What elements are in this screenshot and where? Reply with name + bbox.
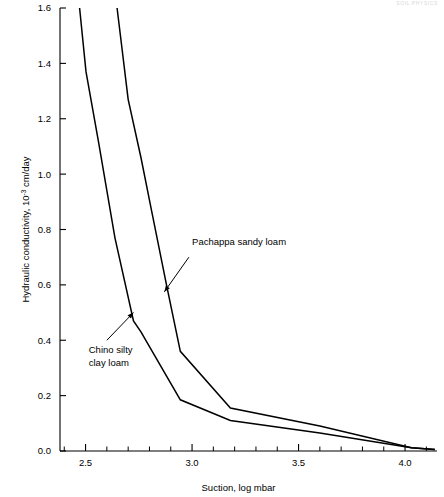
plot-axes: [60, 8, 437, 451]
y-axis-title: Hydraulic conductivity, 10-3 cm/day: [20, 156, 32, 302]
y-tick-label: 0.4: [38, 335, 51, 346]
curve-chino-silty-clay-loam: [80, 8, 435, 450]
y-tick-label: 1.6: [38, 2, 51, 13]
x-tick-label: 4.0: [398, 457, 411, 468]
curve-pachappa-sandy-loam: [117, 8, 435, 450]
x-axis-title: Suction, log mbar: [202, 482, 276, 493]
pachappa-label-leader: [164, 257, 188, 292]
y-tick-label: 0.8: [38, 224, 51, 235]
x-tick-label: 2.5: [79, 457, 92, 468]
tick-marks: [60, 8, 426, 451]
chino-label-line: Chino silty: [89, 344, 133, 355]
y-tick-label: 1.4: [38, 58, 51, 69]
data-curves: [80, 8, 435, 450]
chino-label-line: clay loam: [89, 357, 129, 368]
y-tick-label: 0.6: [38, 279, 51, 290]
x-tick-label: 3.0: [185, 457, 198, 468]
axis-titles: Suction, log mbarHydraulic conductivity,…: [20, 156, 276, 493]
x-tick-label: 3.5: [292, 457, 305, 468]
y-tick-label: 0.0: [38, 445, 51, 456]
y-tick-label: 0.2: [38, 390, 51, 401]
y-tick-label: 1.0: [38, 169, 51, 180]
pachappa-label-line: Pachappa sandy loam: [192, 236, 286, 247]
y-tick-label: 1.2: [38, 113, 51, 124]
hydraulic-conductivity-chart: 0.00.20.40.60.81.01.21.41.62.53.03.54.0 …: [0, 0, 444, 497]
